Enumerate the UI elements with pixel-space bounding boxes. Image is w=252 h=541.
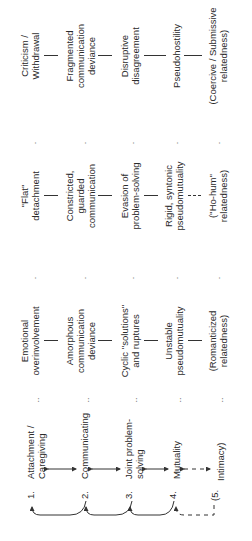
- marker-col3-row4: .: [171, 142, 180, 145]
- item-line: Criticism /: [19, 33, 30, 80]
- item-line: pseudomutuality: [174, 161, 185, 230]
- item-line: communication: [75, 24, 86, 88]
- item-line: Withdrawal: [30, 33, 41, 80]
- connector-line: [144, 55, 166, 56]
- marker-col3-row1: .: [29, 142, 38, 145]
- item-line: overinvolvement: [30, 306, 41, 375]
- item-line: Unstable: [163, 306, 174, 375]
- family-process-diagram: 1. 2. 3. 4. (5. Attachment / Caregiving …: [0, 0, 252, 541]
- item-line: relatedness): [218, 7, 229, 104]
- col3-item-disruptive-disagreement: Disruptive disagreement: [119, 27, 141, 85]
- col2-item-rigid-syntonic-pseudomutuality: Rigid, syntonic pseudomutuality: [163, 161, 185, 230]
- connector-line: [98, 340, 112, 341]
- marker-col1-row4: ..: [174, 397, 183, 402]
- connector-line: [44, 55, 58, 56]
- item-line: Disruptive: [119, 27, 130, 85]
- col2-item-ho-hum-relatedness: (''Ho-hum'' relatedness): [207, 170, 229, 222]
- dashed-connector-line: [188, 195, 202, 196]
- item-line: (''Ho-hum'': [207, 170, 218, 222]
- item-line: and ruptures: [130, 305, 141, 378]
- marker-col2-row2: .: [79, 277, 88, 280]
- item-line: ''Flat'': [19, 171, 30, 221]
- item-line: deviance: [86, 309, 97, 373]
- col1-item-emotional-overinvolvement: Emotional overinvolvement: [19, 306, 41, 375]
- item-line: pseudomutuality: [174, 306, 185, 375]
- marker-col2-row5: .: [213, 277, 222, 280]
- item-line: Amorphous: [64, 309, 75, 373]
- connector-line: [98, 195, 112, 196]
- item-line: deviance: [86, 24, 97, 88]
- col1-item-unstable-pseudomutuality: Unstable pseudomutuality: [163, 306, 185, 375]
- connector-line: [144, 195, 158, 196]
- marker-col2-row1: .: [29, 277, 38, 280]
- col3-item-pseudohostility: Pseudohostility: [171, 24, 182, 88]
- col2-item-evasion-of-problem-solving: Evasion of problem-solving: [119, 162, 141, 229]
- loop-arrow-5-4: [176, 505, 214, 515]
- item-line: problem-solving: [130, 162, 141, 229]
- marker-col1-row5: ..: [216, 397, 225, 402]
- connector-line: [44, 195, 58, 196]
- col2-item-constricted-guarded-communication: Constricted, guarded communication: [64, 164, 97, 228]
- connector-line: [184, 55, 202, 56]
- item-line: (Coercive / Submissive: [207, 7, 218, 104]
- connector-line: [144, 340, 158, 341]
- connector-line: [98, 55, 112, 56]
- marker-col3-row3: .: [127, 142, 136, 145]
- col3-item-fragmented-communication-deviance: Fragmented communication deviance: [64, 24, 97, 88]
- marker-col2-row4: .: [171, 277, 180, 280]
- item-line: Constricted,: [64, 164, 75, 228]
- loop-arrow-4-3: [130, 501, 174, 515]
- marker-col3-row2: .: [79, 142, 88, 145]
- item-line: Evasion of: [119, 162, 130, 229]
- loop-arrow-3-2: [86, 501, 132, 515]
- item-line: relatedness): [218, 170, 229, 222]
- item-line: guarded: [75, 164, 86, 228]
- item-line: (Romanticized: [207, 311, 218, 372]
- col1-item-cyclic-solutions: Cyclic ''solutions'' and ruptures: [119, 305, 141, 378]
- loop-arrow-2-1: [32, 501, 86, 515]
- marker-col1-row2: ..: [82, 397, 91, 402]
- item-line: Rigid, syntonic: [163, 161, 174, 230]
- connector-line: [188, 340, 202, 341]
- item-line: disagreement: [130, 27, 141, 85]
- item-line: communication: [86, 164, 97, 228]
- item-line: detachment: [30, 171, 41, 221]
- col1-item-amorphous-communication-deviance: Amorphous communication deviance: [64, 309, 97, 373]
- item-line: relatedness): [218, 311, 229, 372]
- item-line: Cyclic ''solutions'': [119, 305, 130, 378]
- col1-item-romanticized-relatedness: (Romanticized relatedness): [207, 311, 229, 372]
- marker-col1-row1: ..: [32, 397, 41, 402]
- marker-col2-row3: .: [127, 277, 136, 280]
- item-line: Pseudohostility: [171, 24, 182, 88]
- connector-line: [44, 340, 58, 341]
- col3-item-coercive-submissive-relatedness: (Coercive / Submissive relatedness): [207, 7, 229, 104]
- item-line: Fragmented: [64, 24, 75, 88]
- item-line: communication: [75, 309, 86, 373]
- marker-col3-row5: .: [213, 142, 222, 145]
- col3-item-criticism-withdrawal: Criticism / Withdrawal: [19, 33, 41, 80]
- item-line: Emotional: [19, 306, 30, 375]
- col2-item-flat-detachment: ''Flat'' detachment: [19, 171, 41, 221]
- marker-col1-row3: ..: [130, 397, 139, 402]
